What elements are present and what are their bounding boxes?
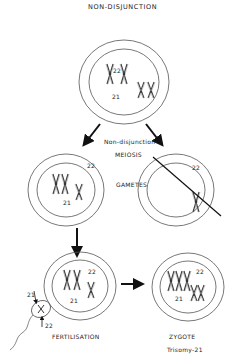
label-zygote-22: 22 [196,268,204,275]
label-zygote-21: 21 [175,295,183,302]
gamete-right [138,154,221,226]
label-fert-22: 22 [88,268,96,275]
label-sperm-22: 22 [45,322,53,329]
arrow-left-icon [86,124,100,142]
label-zygote: ZYGOTE [169,333,195,340]
label-parent-22: 22 [113,67,121,74]
label-fertilisation: FERTILISATION [52,333,100,340]
label-sperm-21: 21 [27,291,35,298]
label-fert-21: 21 [70,297,78,304]
diagram-title: NON-DISJUNCTION [88,3,157,11]
sperm-tail [10,315,33,350]
parent-cell [79,40,169,124]
label-gamete-left-22: 22 [87,162,95,169]
strike-line [153,157,221,216]
label-gametes: GAMETES [116,181,147,188]
zygote-cell [152,253,224,321]
label-trisomy-21: Trisomy-21 [167,346,203,353]
label-gamete-right-22: 22 [192,164,200,171]
label-parent-21: 21 [112,93,120,100]
label-gamete-left-21: 21 [63,199,71,206]
non-disjunction-diagram [0,0,229,362]
label-non-disjunction: Non-disjunction [104,138,155,145]
label-meiosis: MEIOSIS [115,151,142,158]
